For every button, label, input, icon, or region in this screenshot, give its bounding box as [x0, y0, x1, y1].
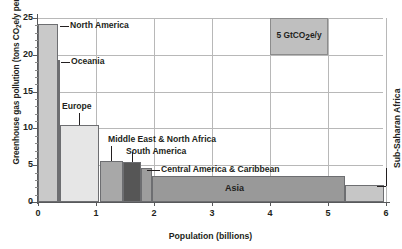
- y-tick-25: [33, 18, 38, 19]
- x-tick-0: [38, 202, 39, 206]
- gridline-y-25: [38, 18, 383, 19]
- leader-sub-saharan-africa-vertical: [386, 168, 387, 186]
- label-middle-east-north-africa: Middle East & North Africa: [108, 134, 216, 144]
- y-tick-15: [33, 92, 38, 93]
- y-tick-label-15: 15: [3, 86, 33, 96]
- y-tick-label-0: 0: [3, 196, 33, 206]
- x-tick-label-5: 5: [316, 208, 340, 218]
- label-oceania: Oceania: [71, 56, 104, 66]
- leader-central-america: [147, 170, 160, 171]
- y-tick-label-5: 5: [3, 159, 33, 169]
- leader-europe: [79, 113, 80, 125]
- y-tick-minor-9: [35, 136, 39, 137]
- bar-central-america-caribbean: [141, 168, 151, 202]
- x-tick-6: [386, 202, 387, 206]
- x-tick-3: [212, 202, 213, 206]
- x-tick-4: [270, 202, 271, 206]
- x-tick-label-4: 4: [258, 208, 282, 218]
- x-axis-title: Population (billions): [38, 231, 383, 241]
- legend-swatch-label: 5 GtCO2e/y: [276, 30, 321, 42]
- y-tick-minor-21: [35, 47, 39, 48]
- y-axis-title-subscript: 2: [15, 25, 22, 28]
- y-tick-minor-14: [35, 99, 39, 100]
- y-tick-minor-13: [35, 106, 39, 107]
- gridline-x-3: [212, 18, 213, 202]
- x-tick-2: [154, 202, 155, 206]
- x-tick-label-0: 0: [26, 208, 50, 218]
- y-tick-minor-24: [35, 25, 39, 26]
- legend-unit-post: e/y: [310, 30, 322, 40]
- bar-north-america: [38, 24, 58, 202]
- label-europe: Europe: [62, 101, 92, 111]
- y-tick-minor-12: [35, 114, 39, 115]
- y-tick-minor-17: [35, 77, 39, 78]
- x-tick-label-3: 3: [200, 208, 224, 218]
- bar-sub-saharan-africa: [345, 185, 384, 202]
- label-sub-saharan-africa: Sub-Saharan Africa: [392, 89, 402, 168]
- y-tick-minor-19: [35, 62, 39, 63]
- leader-north-america: [60, 26, 69, 27]
- label-asia: Asia: [225, 183, 244, 193]
- y-axis-title: Greenhouse gas pollution (tons CO2e/y pe…: [11, 0, 22, 166]
- x-tick-label-6: 6: [374, 208, 398, 218]
- y-tick-10: [33, 128, 38, 129]
- y-axis-line: [37, 14, 38, 204]
- y-tick-label-25: 25: [3, 12, 33, 22]
- bar-south-america: [123, 162, 141, 202]
- bar-europe: [60, 125, 100, 202]
- y-tick-label-20: 20: [3, 49, 33, 59]
- gridline-y-15: [38, 92, 383, 93]
- y-tick-minor-3: [35, 180, 39, 181]
- gridline-x-2: [154, 18, 155, 202]
- label-central-america-caribbean: Central America & Caribbean: [161, 164, 280, 174]
- x-axis-line: [30, 202, 390, 203]
- y-tick-minor-1: [35, 195, 39, 196]
- label-south-america: South America: [126, 146, 186, 156]
- y-tick-20: [33, 55, 38, 56]
- x-tick-5: [328, 202, 329, 206]
- x-tick-label-1: 1: [84, 208, 108, 218]
- x-tick-1: [96, 202, 97, 206]
- y-tick-minor-22: [35, 40, 39, 41]
- y-tick-minor-7: [35, 151, 39, 152]
- y-tick-minor-23: [35, 33, 39, 34]
- label-north-america: North America: [70, 20, 129, 30]
- leader-oceania: [61, 62, 70, 63]
- y-tick-minor-18: [35, 70, 39, 71]
- bar-middle-east-north-africa: [100, 161, 124, 202]
- legend-unit-pre: GtCO: [281, 30, 305, 40]
- y-tick-minor-11: [35, 121, 39, 122]
- y-tick-5: [33, 165, 38, 166]
- x-tick-label-2: 2: [142, 208, 166, 218]
- y-tick-minor-6: [35, 158, 39, 159]
- legend-area-swatch: 5 GtCO2e/y: [270, 18, 328, 55]
- gridline-x-5: [328, 18, 329, 202]
- y-tick-minor-4: [35, 173, 39, 174]
- y-tick-minor-8: [35, 143, 39, 144]
- bar-asia: [152, 176, 346, 202]
- leader-middle-east: [111, 146, 112, 161]
- y-tick-minor-2: [35, 187, 39, 188]
- y-tick-label-10: 10: [3, 122, 33, 132]
- y-tick-minor-16: [35, 84, 39, 85]
